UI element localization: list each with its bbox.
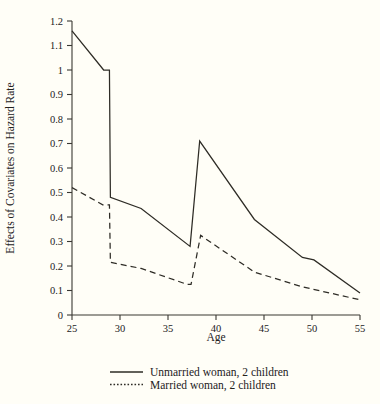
y-tick-label: 0.7 (50, 138, 63, 149)
chart-legend: Unmarried woman, 2 children Married woma… (110, 366, 289, 392)
x-tick-label: 55 (355, 323, 366, 334)
x-axis-title: Age (206, 331, 225, 344)
y-axis-title: Effects of Covariates on Hazard Rate (4, 82, 16, 253)
y-tick-label: 1.1 (50, 40, 63, 51)
y-tick-label: 0.4 (50, 212, 64, 223)
y-tick-label: 0.9 (50, 89, 63, 100)
hazard-rate-line-chart: 00.10.20.30.40.50.60.70.80.911.11.2 2530… (0, 0, 380, 404)
y-tick-label: 1 (58, 65, 63, 76)
y-tick-label: 0.6 (50, 163, 63, 174)
y-tick-label: 0.1 (50, 285, 63, 296)
series-line-unmarried (72, 31, 360, 293)
x-tick-label: 45 (259, 323, 270, 334)
x-axis-ticks (72, 315, 360, 320)
y-tick-label: 0.3 (50, 236, 63, 247)
series-line-married (72, 188, 360, 300)
y-axis-ticks (67, 21, 72, 315)
x-tick-label: 25 (67, 323, 78, 334)
y-tick-label: 0.5 (50, 187, 63, 198)
legend-label-unmarried: Unmarried woman, 2 children (150, 366, 289, 379)
y-axis-tick-labels: 00.10.20.30.40.50.60.70.80.911.11.2 (50, 16, 64, 321)
x-tick-label: 35 (163, 323, 174, 334)
x-tick-label: 50 (307, 323, 318, 334)
y-tick-label: 0.8 (50, 114, 63, 125)
x-tick-label: 30 (115, 323, 126, 334)
legend-label-married: Married woman, 2 children (150, 379, 276, 392)
y-tick-label: 0.2 (50, 261, 63, 272)
y-tick-label: 0 (58, 310, 63, 321)
chart-canvas: 00.10.20.30.40.50.60.70.80.911.11.2 2530… (0, 0, 380, 404)
y-tick-label: 1.2 (50, 16, 63, 27)
